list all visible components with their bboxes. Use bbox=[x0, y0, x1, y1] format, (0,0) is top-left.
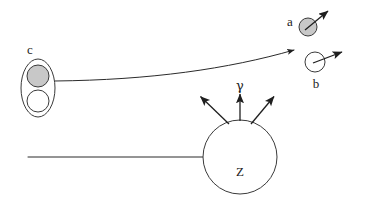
gamma-arrow-left bbox=[201, 97, 230, 125]
particle-b-label: b bbox=[313, 76, 320, 91]
physics-diagram-figure: Z γ c a b bbox=[0, 0, 368, 201]
diagram-canvas: Z γ c a b bbox=[0, 0, 368, 201]
nucleus-z-circle bbox=[203, 120, 277, 194]
nucleon-filled-circle bbox=[27, 65, 49, 87]
nucleus-z-label: Z bbox=[236, 164, 244, 179]
particle-c-label: c bbox=[27, 42, 33, 57]
particle-a-label: a bbox=[287, 14, 293, 29]
gamma-arrow-right bbox=[251, 97, 274, 125]
trajectory-curve bbox=[55, 50, 294, 81]
nucleon-empty-circle bbox=[27, 90, 49, 112]
gamma-label: γ bbox=[236, 78, 244, 93]
